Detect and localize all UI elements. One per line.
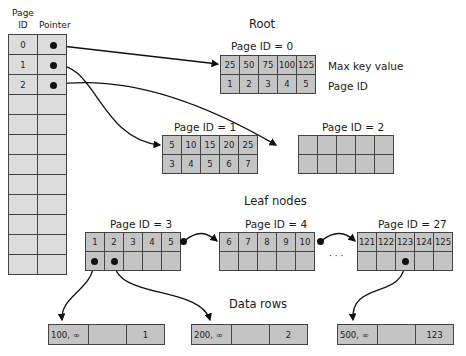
data-rows-heading: Data rows xyxy=(229,298,287,310)
leaf-row-dot-2 xyxy=(111,258,118,265)
leaf-node-3: 1 2 3 4 5 xyxy=(85,232,181,271)
page-id-cell: 2 xyxy=(9,75,38,95)
page-table-row xyxy=(9,135,67,155)
root-pageid-row: 1 2 3 4 5 xyxy=(221,75,316,94)
root-node: 25 50 75 100 125 1 2 3 4 5 xyxy=(220,55,316,94)
page-table-row: 1 xyxy=(9,55,67,75)
page-id-cell xyxy=(9,135,38,155)
leaf3-next-dot xyxy=(180,238,187,245)
page2-label: Page ID = 2 xyxy=(322,121,384,133)
intermediate-node-1: 5 10 15 20 25 3 4 5 6 7 xyxy=(162,135,258,174)
pointer-cell xyxy=(38,215,67,235)
pointer-dot-1 xyxy=(50,62,57,69)
pointer-header: Pointer xyxy=(39,19,71,31)
page-id-cell: 1 xyxy=(9,55,38,75)
page-id-cell xyxy=(9,155,38,175)
page-table-row xyxy=(9,175,67,195)
page-id-cell xyxy=(9,235,38,255)
data-row-1: 100, ∞ 1 xyxy=(48,324,165,345)
leaf-node-4: 6 7 8 9 10 xyxy=(219,232,315,271)
page-pointer-table: 012 xyxy=(8,34,67,275)
leaf27-label: Page ID = 27 xyxy=(378,218,447,230)
page-id-cell: 0 xyxy=(9,35,38,55)
leaf-nodes-heading: Leaf nodes xyxy=(244,195,307,207)
pointer-cell xyxy=(38,175,67,195)
root-heading: Root xyxy=(249,18,275,30)
page-id-row-label: Page ID xyxy=(328,80,368,92)
ellipsis: · · · xyxy=(329,250,343,262)
data-row-2: 200, ∞ 2 xyxy=(191,324,308,345)
pointer-cell xyxy=(38,115,67,135)
page-table-row xyxy=(9,215,67,235)
page-id-cell xyxy=(9,255,38,275)
page-table-row xyxy=(9,235,67,255)
page-id-cell xyxy=(9,95,38,115)
pointer-dot-0 xyxy=(50,42,57,49)
page-table-row: 2 xyxy=(9,75,67,95)
leaf4-next-dot xyxy=(317,238,324,245)
leaf-node-27: 121 122 123 124 125 xyxy=(357,232,453,271)
page-table-row xyxy=(9,95,67,115)
pointer-cell xyxy=(38,255,67,275)
page-id-header: Page ID xyxy=(11,7,35,31)
page-table-row: 0 xyxy=(9,35,67,55)
page-id-cell xyxy=(9,195,38,215)
root-page-label: Page ID = 0 xyxy=(231,40,293,52)
page-id-cell xyxy=(9,175,38,195)
pointer-cell xyxy=(38,135,67,155)
pointer-cell xyxy=(38,95,67,115)
page-table-row xyxy=(9,155,67,175)
page-table-row xyxy=(9,115,67,135)
page-table-row xyxy=(9,255,67,275)
leaf3-label: Page ID = 3 xyxy=(110,218,172,230)
intermediate-node-2 xyxy=(298,135,394,174)
page1-label: Page ID = 1 xyxy=(174,121,236,133)
pointer-cell xyxy=(38,235,67,255)
leaf4-label: Page ID = 4 xyxy=(245,218,307,230)
pointer-dot-2 xyxy=(50,82,57,89)
leaf-row-dot-1 xyxy=(91,258,98,265)
page-id-cell xyxy=(9,115,38,135)
page-id-cell xyxy=(9,215,38,235)
page-table-row xyxy=(9,195,67,215)
data-row-3: 500, ∞ 123 xyxy=(337,324,454,345)
leaf-row-dot-123 xyxy=(402,258,409,265)
pointer-cell xyxy=(38,195,67,215)
max-key-value-label: Max key value xyxy=(328,60,403,72)
root-key-row: 25 50 75 100 125 xyxy=(221,56,316,75)
pointer-cell xyxy=(38,155,67,175)
